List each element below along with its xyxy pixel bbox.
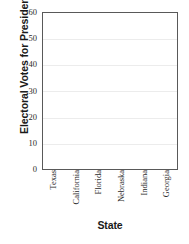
bars-layer [43, 13, 177, 169]
x-tick-label: Georgia [159, 170, 173, 197]
y-axis-tick-label-group: 60 50 40 30 20 10 0 [0, 0, 42, 182]
x-tick-label: Texas [46, 170, 60, 190]
bar-chart-figure: Electoral Votes for President 60 50 40 3… [0, 0, 189, 244]
y-tick-label: 30 [7, 87, 37, 95]
x-tick-cell: California [65, 170, 87, 218]
x-tick-label: Indiana [137, 170, 151, 196]
y-tick-label: 60 [7, 8, 37, 16]
y-tick-label: 50 [7, 34, 37, 42]
x-tick-label: California [69, 170, 83, 204]
y-tick-label: 20 [7, 113, 37, 121]
x-axis-title: State [42, 219, 178, 231]
x-tick-cell: Indiana [133, 170, 155, 218]
x-tick-cell: Florida [87, 170, 109, 218]
y-tick-label: 10 [7, 139, 37, 147]
y-tick-label: 0 [7, 165, 37, 173]
y-tick-label: 40 [7, 60, 37, 68]
plot-area [42, 12, 178, 170]
x-tick-cell: Texas [42, 170, 64, 218]
x-tick-label: Florida [91, 170, 105, 195]
x-tick-cell: Georgia [155, 170, 177, 218]
x-tick-label: Nebraska [114, 170, 128, 202]
x-tick-cell: Nebraska [110, 170, 132, 218]
x-axis-tick-label-group: Texas California Florida Nebraska Indian… [42, 170, 178, 218]
